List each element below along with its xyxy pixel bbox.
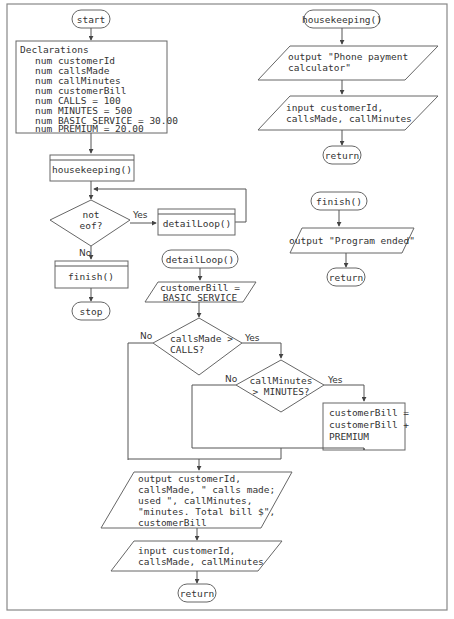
output-text: callsMade, " calls made; [138, 484, 275, 495]
decision-text: callMinutes [250, 375, 313, 386]
terminal-finish-return: return [327, 268, 365, 286]
decision-text: > MINUTES? [252, 386, 309, 397]
process-finish-call: finish() [55, 261, 128, 288]
input-housekeeping: input customerId, callsMade, callMinutes [258, 96, 438, 130]
input-detailloop: input customerId, callsMade, callMinutes [111, 541, 282, 571]
terminal-detailloop: detailLoop() [162, 250, 238, 268]
output-bill: output customerId, callsMade, " calls ma… [101, 472, 292, 528]
decision-text: CALLS? [170, 344, 204, 355]
housekeeping-call-label: housekeeping() [52, 164, 132, 175]
return-label: return [325, 150, 359, 161]
terminal-housekeeping-return: return [323, 146, 361, 164]
decision-text: not [82, 209, 99, 220]
decision-not-eof: not eof? [50, 200, 130, 246]
output-program-ended: output "Program ended" [289, 228, 415, 253]
no-label: No [140, 331, 153, 341]
terminal-stop: stop [72, 302, 110, 320]
decision-text: callsMade > [170, 333, 233, 344]
detailloop-call-label: detailLoop() [163, 218, 232, 229]
output-text: calculator" [288, 62, 351, 73]
output-phone-payment: output "Phone payment calculator" [258, 46, 438, 80]
assign-text: BASIC_SERVICE [163, 292, 238, 303]
finish-call-label: finish() [68, 271, 114, 282]
input-text: callsMade, callMinutes [286, 113, 412, 124]
process-housekeeping-call: housekeeping() [50, 155, 134, 181]
no-label: No [79, 248, 92, 258]
output-text: output customerId, [138, 473, 241, 484]
decision-minutes: callMinutes > MINUTES? [236, 360, 324, 412]
declarations-box: Declarations num customerId num callsMad… [16, 41, 178, 134]
flowchart: start Declarations num customerId num ca… [0, 0, 454, 619]
output-text: output "Program ended" [289, 235, 415, 246]
no-label: No [225, 374, 238, 384]
yes-label: Yes [244, 333, 260, 343]
process-detailloop-call: detailLoop() [158, 209, 235, 235]
input-text: input customerId, [138, 545, 235, 556]
return-label: return [329, 272, 363, 283]
premium-text: customerBill = [329, 407, 409, 418]
premium-text: PREMIUM [329, 431, 369, 442]
decision-calls: callsMade > CALLS? [153, 318, 242, 375]
housekeeping-header: housekeeping() [302, 14, 382, 25]
terminal-housekeeping: housekeeping() [302, 10, 382, 28]
input-text: callsMade, callMinutes [138, 556, 264, 567]
terminal-detailloop-return: return [178, 584, 216, 602]
declaration-line: num PREMIUM = 20.00 [35, 123, 144, 134]
yes-label: Yes [327, 375, 343, 385]
output-text: customerBill [138, 517, 207, 528]
input-text: input customerId, [286, 102, 383, 113]
output-text: "minutes. Total bill $", [138, 506, 275, 517]
detailloop-header: detailLoop() [166, 254, 235, 265]
terminal-finish: finish() [311, 192, 367, 210]
output-text: used ", callMinutes, [138, 495, 252, 506]
yes-label: Yes [132, 210, 148, 220]
declarations-title: Declarations [20, 44, 89, 55]
decision-text: eof? [80, 220, 103, 231]
premium-text: customerBill + [329, 419, 409, 430]
process-add-premium: customerBill = customerBill + PREMIUM [323, 403, 409, 450]
return-label: return [180, 588, 214, 599]
start-label: start [77, 14, 106, 25]
stop-label: stop [80, 306, 103, 317]
output-text: output "Phone payment [288, 51, 408, 62]
finish-header: finish() [316, 196, 362, 207]
assign-basic-service: customerBill = BASIC_SERVICE [145, 282, 256, 303]
terminal-start: start [72, 10, 110, 28]
